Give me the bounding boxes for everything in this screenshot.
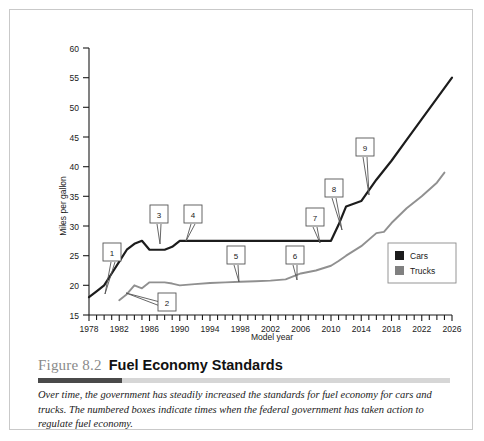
y-tick-label: 60 <box>70 44 80 54</box>
x-axis-ticks <box>89 315 452 321</box>
callout-leader-8 <box>332 198 342 230</box>
y-tick-label: 15 <box>70 311 80 321</box>
x-tick-label: 1982 <box>110 324 129 334</box>
callout-label: 4 <box>191 211 196 220</box>
x-axis-title: Model year <box>251 332 293 342</box>
callout-label: 7 <box>313 214 318 223</box>
legend-label-cars: Cars <box>410 251 428 261</box>
figure-title: Fuel Economy Standards <box>109 357 283 373</box>
chart-panel: 60 55 50 45 40 35 30 25 20 15 1978198219… <box>10 10 474 350</box>
x-tick-label: 2018 <box>382 324 401 334</box>
callout-box-3[interactable]: 3 <box>150 205 168 223</box>
callout-box-9[interactable]: 9 <box>356 138 374 156</box>
x-tick-label: 2026 <box>443 324 462 334</box>
callout-label: 5 <box>234 252 239 261</box>
x-tick-label: 1990 <box>170 324 189 334</box>
callout-box-2[interactable]: 2 <box>158 293 176 311</box>
callout-leader-5 <box>234 265 239 282</box>
x-tick-label: 2006 <box>291 324 310 334</box>
y-axis-tick-labels: 60 55 50 45 40 35 30 25 20 15 <box>70 44 80 321</box>
y-tick-label: 25 <box>70 251 80 261</box>
callout-box-5[interactable]: 5 <box>227 246 245 264</box>
x-tick-label: 2014 <box>352 324 371 334</box>
figure-number: Figure 8.2 <box>38 357 102 373</box>
y-tick-label: 45 <box>70 133 80 143</box>
callout-label: 1 <box>110 249 115 258</box>
callout-box-7[interactable]: 7 <box>306 208 324 226</box>
y-tick-label: 55 <box>70 73 80 83</box>
fuel-economy-line-chart: 60 55 50 45 40 35 30 25 20 15 1978198219… <box>10 10 474 350</box>
chart-legend: Cars Trucks <box>388 243 456 283</box>
callout-label: 3 <box>157 211 162 220</box>
x-tick-label: 2022 <box>412 324 431 334</box>
y-axis-title: Miles per gallon <box>58 176 68 236</box>
callout-leader-4 <box>186 224 195 241</box>
caption-heading: Figure 8.2Fuel Economy Standards <box>38 356 283 374</box>
legend-label-trucks: Trucks <box>410 266 435 276</box>
callout-leader-6 <box>293 265 297 280</box>
figure-container: 60 55 50 45 40 35 30 25 20 15 1978198219… <box>9 9 473 430</box>
y-tick-label: 40 <box>70 162 80 172</box>
y-tick-label: 35 <box>70 192 80 202</box>
callout-box-8[interactable]: 8 <box>325 179 343 197</box>
y-tick-label: 30 <box>70 222 80 232</box>
callout-label: 2 <box>165 299 170 308</box>
legend-swatch-trucks <box>395 266 404 275</box>
y-tick-label: 20 <box>70 281 80 291</box>
x-tick-label: 1998 <box>231 324 250 334</box>
callout-leader-3 <box>157 224 161 244</box>
caption-body-text: Over time, the government has steadily i… <box>38 388 442 432</box>
legend-swatch-cars <box>395 251 404 260</box>
callout-leader-1 <box>105 262 115 294</box>
callout-leader-9 <box>363 157 369 195</box>
callout-leader-2 <box>126 293 160 306</box>
callout-box-4[interactable]: 4 <box>184 205 202 223</box>
x-tick-label: 1994 <box>201 324 220 334</box>
y-tick-label: 50 <box>70 103 80 113</box>
y-axis-ticks <box>83 48 89 315</box>
callout-label: 6 <box>293 252 298 261</box>
figure-caption-block: Figure 8.2Fuel Economy Standards Over ti… <box>10 351 474 431</box>
x-tick-label: 1978 <box>80 324 99 334</box>
callout-label: 8 <box>332 185 337 194</box>
callout-label: 9 <box>363 144 368 153</box>
callout-box-6[interactable]: 6 <box>286 246 304 264</box>
x-tick-label: 1986 <box>140 324 159 334</box>
caption-divider-bar <box>38 378 450 383</box>
callout-box-1[interactable]: 1 <box>103 243 121 261</box>
x-tick-label: 2010 <box>322 324 341 334</box>
